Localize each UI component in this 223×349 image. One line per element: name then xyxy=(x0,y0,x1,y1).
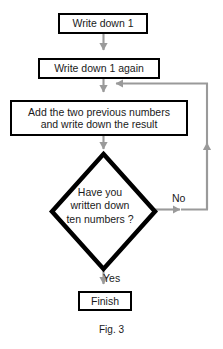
edge-label-no: No xyxy=(172,192,185,204)
figure-caption: Fig. 3 xyxy=(0,324,223,335)
node-write-down-1-again-label: Write down 1 again xyxy=(51,62,147,74)
node-write-down-1-label: Write down 1 xyxy=(69,17,136,29)
node-write-down-1-again[interactable]: Write down 1 again xyxy=(38,58,160,79)
node-add-two-previous-numbers-label: Add the two previous numbers and write d… xyxy=(25,106,173,131)
edge-label-yes: Yes xyxy=(103,272,120,284)
node-write-down-1[interactable]: Write down 1 xyxy=(58,13,148,34)
node-decision-label: Have you written down ten numbers ? xyxy=(52,186,148,226)
node-finish-label: Finish xyxy=(88,295,122,307)
node-finish[interactable]: Finish xyxy=(78,291,132,311)
node-add-two-previous-numbers[interactable]: Add the two previous numbers and write d… xyxy=(10,100,188,136)
flowchart-figure: Write down 1 Write down 1 again Add the … xyxy=(0,0,223,349)
